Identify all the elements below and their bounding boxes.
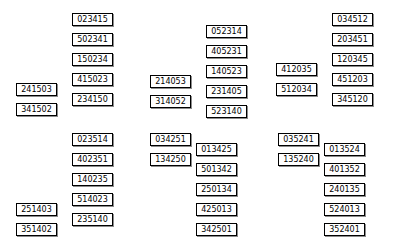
- loop-edge: [113, 20, 133, 100]
- state-node-side[interactable]: 035241: [278, 133, 319, 146]
- loop-edge: [365, 150, 385, 230]
- state-node[interactable]: 401352: [324, 163, 365, 176]
- state-node-side[interactable]: 241503: [16, 83, 57, 96]
- state-node-side[interactable]: 214053: [150, 75, 191, 88]
- loop-edge: [113, 140, 133, 220]
- state-node[interactable]: 425013: [196, 203, 237, 216]
- side-edge: [191, 92, 206, 102]
- state-node-side[interactable]: 134250: [150, 153, 191, 166]
- side-edge: [57, 90, 72, 100]
- state-node[interactable]: 120345: [332, 53, 373, 66]
- state-node-side[interactable]: 351402: [16, 223, 57, 236]
- state-node[interactable]: 250134: [196, 183, 237, 196]
- state-node[interactable]: 235140: [72, 213, 113, 226]
- state-node[interactable]: 502341: [72, 33, 113, 46]
- side-edge: [57, 100, 72, 110]
- state-node[interactable]: 140235: [72, 173, 113, 186]
- side-edge: [317, 70, 332, 80]
- diagram-canvas: 0234155023411502344150232341502415033415…: [0, 0, 404, 248]
- state-node-side[interactable]: 135240: [278, 153, 319, 166]
- side-edge: [57, 220, 72, 230]
- loop-edge: [373, 20, 393, 100]
- state-node[interactable]: 052314: [206, 25, 247, 38]
- state-node[interactable]: 524013: [324, 203, 365, 216]
- state-node[interactable]: 023415: [72, 13, 113, 26]
- side-edge: [191, 82, 206, 92]
- state-node-side[interactable]: 412035: [276, 63, 317, 76]
- state-node[interactable]: 402351: [72, 153, 113, 166]
- state-node-side[interactable]: 314052: [150, 95, 191, 108]
- state-node[interactable]: 034512: [332, 13, 373, 26]
- state-node[interactable]: 150234: [72, 53, 113, 66]
- state-node[interactable]: 203451: [332, 33, 373, 46]
- state-node[interactable]: 342501: [196, 223, 237, 236]
- state-node[interactable]: 415023: [72, 73, 113, 86]
- state-node-side[interactable]: 034251: [150, 133, 191, 146]
- state-node-side[interactable]: 251403: [16, 203, 57, 216]
- state-node[interactable]: 451203: [332, 73, 373, 86]
- side-edge: [57, 210, 72, 220]
- loop-edge: [237, 150, 257, 230]
- state-node[interactable]: 240135: [324, 183, 365, 196]
- state-node[interactable]: 013425: [196, 143, 237, 156]
- state-node[interactable]: 345120: [332, 93, 373, 106]
- state-node[interactable]: 023514: [72, 133, 113, 146]
- state-node[interactable]: 405231: [206, 45, 247, 58]
- state-node[interactable]: 013524: [324, 143, 365, 156]
- state-node-side[interactable]: 512034: [276, 83, 317, 96]
- state-node-side[interactable]: 341502: [16, 103, 57, 116]
- state-node[interactable]: 501342: [196, 163, 237, 176]
- state-node[interactable]: 523140: [206, 105, 247, 118]
- side-edge: [317, 80, 332, 90]
- state-node[interactable]: 231405: [206, 85, 247, 98]
- state-node[interactable]: 514023: [72, 193, 113, 206]
- state-node[interactable]: 140523: [206, 65, 247, 78]
- loop-edge: [247, 32, 267, 112]
- state-node[interactable]: 352401: [324, 223, 365, 236]
- state-node[interactable]: 234150: [72, 93, 113, 106]
